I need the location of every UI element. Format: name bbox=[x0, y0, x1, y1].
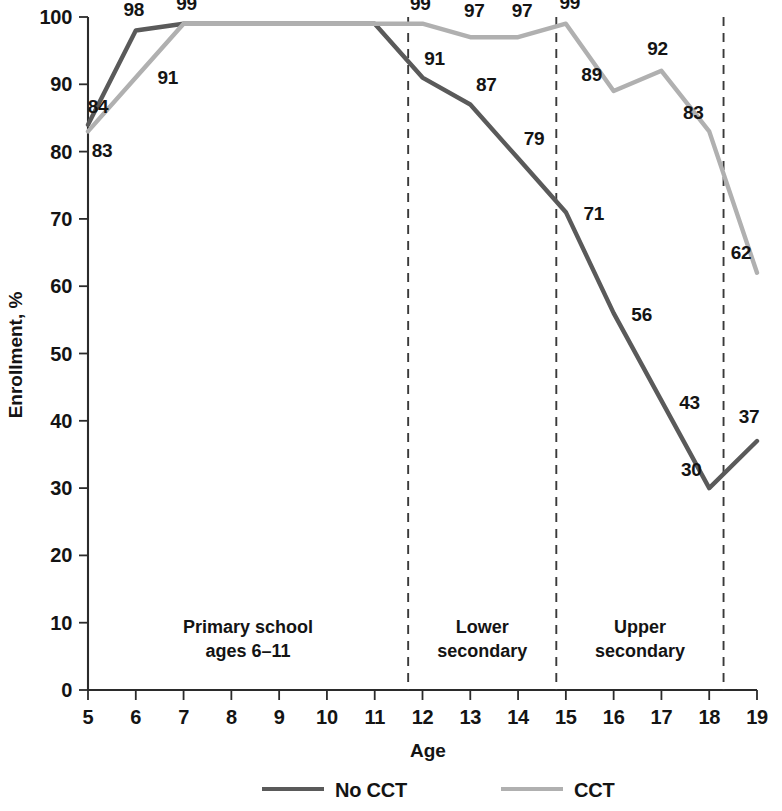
chart-legend: No CCTCCT bbox=[262, 779, 615, 801]
y-tick-label: 20 bbox=[50, 544, 72, 566]
data-label: 43 bbox=[679, 392, 700, 413]
legend-label-cct: CCT bbox=[574, 779, 615, 801]
stage-label-line2: secondary bbox=[595, 641, 685, 661]
data-label: 97 bbox=[464, 0, 485, 21]
series-lines bbox=[88, 24, 757, 488]
x-tick-label: 15 bbox=[555, 706, 577, 728]
data-label: 84 bbox=[88, 96, 109, 117]
data-label: 99 bbox=[560, 0, 581, 13]
y-tick-label: 70 bbox=[50, 208, 72, 230]
data-label: 97 bbox=[512, 0, 533, 21]
y-axis-tick-labels: 0102030405060708090100 bbox=[40, 6, 73, 701]
x-tick-label: 7 bbox=[178, 706, 189, 728]
y-axis-group: 0102030405060708090100 Enrollment, % bbox=[5, 6, 88, 701]
stage-label: Uppersecondary bbox=[595, 617, 685, 661]
stage-label: Primary schoolages 6–11 bbox=[183, 617, 313, 661]
data-label: 56 bbox=[631, 304, 652, 325]
y-axis-title: Enrollment, % bbox=[5, 292, 26, 419]
series-line-no-cct bbox=[88, 24, 757, 488]
data-label: 89 bbox=[581, 64, 602, 85]
stage-label-line1: Upper bbox=[614, 617, 666, 637]
y-tick-label: 60 bbox=[50, 275, 72, 297]
x-tick-label: 8 bbox=[226, 706, 237, 728]
x-tick-label: 5 bbox=[83, 706, 94, 728]
stage-label-line2: secondary bbox=[437, 641, 527, 661]
y-tick-label: 50 bbox=[50, 343, 72, 365]
y-tick-label: 0 bbox=[61, 679, 72, 701]
legend-label-no-cct: No CCT bbox=[335, 779, 407, 801]
y-axis-ticks bbox=[79, 17, 88, 690]
x-tick-label: 18 bbox=[698, 706, 720, 728]
y-tick-label: 30 bbox=[50, 477, 72, 499]
data-label: 71 bbox=[584, 203, 605, 224]
data-label: 91 bbox=[158, 67, 179, 88]
data-label: 30 bbox=[681, 459, 702, 480]
data-label: 79 bbox=[524, 128, 545, 149]
data-label: 92 bbox=[647, 38, 668, 59]
data-label: 62 bbox=[731, 242, 752, 263]
data-label: 87 bbox=[476, 74, 497, 95]
x-tick-label: 16 bbox=[603, 706, 625, 728]
x-axis-ticks bbox=[88, 690, 757, 700]
data-label: 83 bbox=[92, 140, 113, 161]
y-tick-label: 90 bbox=[50, 73, 72, 95]
x-axis-tick-labels: 5678910111213141516171819 bbox=[83, 706, 768, 728]
stage-label-line1: Primary school bbox=[183, 617, 313, 637]
data-label: 99 bbox=[410, 0, 431, 14]
x-tick-label: 10 bbox=[316, 706, 338, 728]
data-label: 91 bbox=[424, 48, 445, 69]
education-stage-labels: Primary schoolages 6–11LowersecondaryUpp… bbox=[183, 617, 685, 661]
x-tick-label: 14 bbox=[507, 706, 530, 728]
x-tick-label: 17 bbox=[651, 706, 673, 728]
data-label: 99 bbox=[176, 0, 197, 14]
y-tick-label: 10 bbox=[50, 612, 72, 634]
data-label: 37 bbox=[739, 406, 760, 427]
x-tick-label: 9 bbox=[274, 706, 285, 728]
x-tick-label: 19 bbox=[746, 706, 768, 728]
stage-label-line1: Lower bbox=[456, 617, 509, 637]
y-tick-label: 80 bbox=[50, 141, 72, 163]
x-tick-label: 12 bbox=[412, 706, 434, 728]
stage-label: Lowersecondary bbox=[437, 617, 527, 661]
stage-label-line2: ages 6–11 bbox=[206, 641, 291, 661]
series-line-cct bbox=[88, 24, 757, 273]
y-tick-label: 40 bbox=[50, 410, 72, 432]
x-axis-group: 5678910111213141516171819 Age bbox=[83, 690, 768, 761]
x-tick-label: 11 bbox=[364, 706, 385, 728]
x-tick-label: 6 bbox=[130, 706, 141, 728]
x-tick-label: 13 bbox=[459, 706, 481, 728]
y-tick-label: 100 bbox=[40, 6, 73, 28]
x-axis-title: Age bbox=[410, 740, 446, 761]
data-label: 98 bbox=[124, 0, 145, 20]
chart-svg: 0102030405060708090100 Enrollment, % 567… bbox=[0, 0, 782, 811]
data-label: 83 bbox=[683, 102, 704, 123]
stage-divider-lines bbox=[408, 17, 723, 690]
enrollment-line-chart: 0102030405060708090100 Enrollment, % 567… bbox=[0, 0, 782, 811]
